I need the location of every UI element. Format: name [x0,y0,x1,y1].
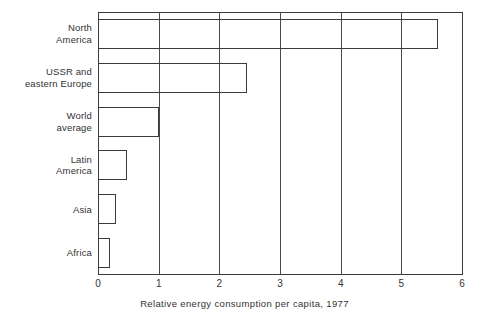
plot-area [98,12,463,275]
gridline-x-1 [159,12,160,275]
bar-chart: North AmericaUSSR and eastern EuropeWorl… [0,0,489,327]
category-label: USSR and eastern Europe [0,66,92,89]
category-label: World average [0,110,92,133]
plot-frame-right [462,12,463,275]
category-label: Africa [0,247,92,259]
bar [98,194,116,224]
x-tick-label: 2 [207,278,231,289]
category-label: Asia [0,204,92,216]
bar [98,238,110,268]
x-axis-tick-labels: 0123456 [98,275,464,297]
x-tick-label: 4 [329,278,353,289]
x-tick-label: 6 [450,278,474,289]
plot-frame-left [98,12,99,275]
bar [98,107,159,137]
x-axis-title: Relative energy consumption per capita, … [0,298,489,309]
x-tick-label: 1 [147,278,171,289]
gridline-x-3 [280,12,281,275]
category-axis-labels: North AmericaUSSR and eastern EuropeWorl… [0,12,92,275]
x-tick-label: 0 [86,278,110,289]
category-label: North America [0,22,92,45]
gridline-x-2 [219,12,220,275]
x-tick-label: 5 [389,278,413,289]
bar [98,19,438,49]
bar [98,150,127,180]
bar [98,63,247,93]
x-tick-label: 3 [268,278,292,289]
gridline-x-5 [401,12,402,275]
gridline-x-4 [341,12,342,275]
category-label: Latin America [0,154,92,177]
